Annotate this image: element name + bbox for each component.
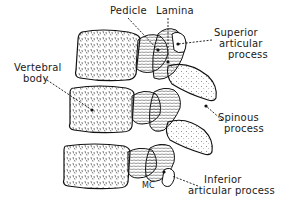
spinous-process-bottom	[166, 120, 212, 154]
label-inferior-line2: articular process	[188, 185, 275, 196]
vertebrae-diagram: Pedicle Lamina Superior articular proces…	[0, 0, 281, 202]
vertebral-body-bottom	[64, 144, 131, 189]
label-superior-line1: Superior	[214, 27, 258, 38]
label-vertebral-line1: Vertebral	[14, 62, 62, 73]
label-inferior-line1: Inferior	[204, 174, 242, 185]
label-lamina: Lamina	[156, 5, 194, 16]
label-vertebral-line2: body	[23, 73, 49, 84]
label-spinous-line2: process	[224, 123, 264, 134]
label-superior-line2: articular	[219, 38, 263, 49]
label-pedicle: Pedicle	[110, 5, 147, 16]
superior-articular-process	[172, 32, 186, 52]
label-spinous-line1: Spinous	[218, 112, 259, 123]
vertebral-body-middle	[70, 86, 135, 133]
vertebral-body-top	[76, 30, 141, 81]
artist-signature: MC	[142, 180, 155, 191]
label-superior-line3: process	[228, 49, 268, 60]
